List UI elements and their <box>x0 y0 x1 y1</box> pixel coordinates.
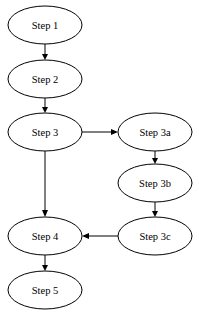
node-label: Step 4 <box>32 231 59 242</box>
node-label: Step 3 <box>32 127 59 138</box>
edge-step3a-step3b <box>152 151 158 164</box>
node-step3c[interactable]: Step 3c <box>118 217 192 255</box>
node-step4[interactable]: Step 4 <box>8 217 82 255</box>
edge-step2-step3 <box>42 98 48 113</box>
node-label: Step 3a <box>139 127 171 138</box>
node-step5[interactable]: Step 5 <box>8 271 82 309</box>
edge-step1-step2 <box>42 44 48 60</box>
edge-step3c-step4 <box>82 233 118 239</box>
flowchart-canvas: Step 1 Step 2 Step 3 Step 3a Step 3b Ste… <box>0 0 199 319</box>
node-step3a[interactable]: Step 3a <box>118 113 192 151</box>
node-step3[interactable]: Step 3 <box>8 113 82 151</box>
edge-step4-step5 <box>42 255 48 271</box>
node-step1[interactable]: Step 1 <box>8 6 82 44</box>
edge-step3b-step3c <box>152 202 158 217</box>
node-label: Step 3c <box>139 231 171 242</box>
node-step3b[interactable]: Step 3b <box>118 164 192 202</box>
node-label: Step 3b <box>139 178 171 189</box>
node-label: Step 1 <box>32 20 59 31</box>
edge-step3-step3a <box>82 129 118 135</box>
node-label: Step 2 <box>32 74 59 85</box>
edge-step3-step4 <box>42 151 48 217</box>
node-label: Step 5 <box>32 285 59 296</box>
node-step2[interactable]: Step 2 <box>8 60 82 98</box>
